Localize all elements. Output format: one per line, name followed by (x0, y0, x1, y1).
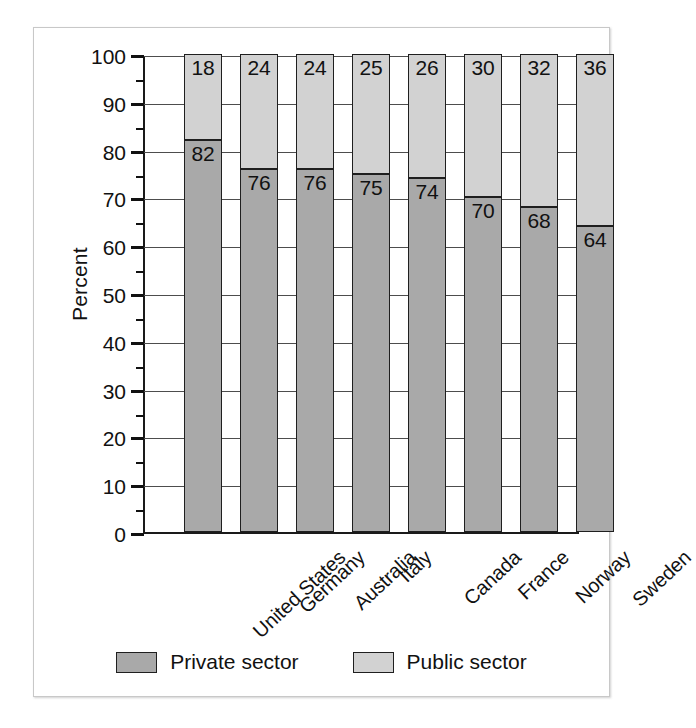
bar-segment-private[interactable]: 64 (576, 226, 614, 532)
y-axis-tick-label: 0 (114, 524, 126, 545)
bar-segment-public[interactable]: 18 (184, 54, 222, 140)
chart-legend: Private sectorPublic sector (34, 650, 609, 674)
bar-segment-private[interactable]: 75 (352, 174, 390, 533)
bar-segment-private[interactable]: 70 (464, 197, 502, 532)
bar-segment-private[interactable]: 82 (184, 140, 222, 532)
x-axis-tick-label: France (513, 546, 573, 604)
y-axis-tick-label: 60 (103, 237, 126, 258)
y-axis-tick-label: 70 (103, 189, 126, 210)
bar-segment-private[interactable]: 76 (240, 169, 278, 532)
y-axis-tick (131, 294, 144, 297)
bar-value-label: 70 (465, 200, 501, 222)
bar-segment-public[interactable]: 24 (296, 54, 334, 169)
y-axis-minor-tick (136, 223, 144, 225)
y-axis-minor-tick (136, 510, 144, 512)
bar-group[interactable]: 7030 (464, 54, 502, 532)
y-axis-minor-tick (136, 462, 144, 464)
bar-value-label: 82 (185, 143, 221, 165)
bar-group[interactable]: 8218 (184, 54, 222, 532)
y-axis-tick (131, 198, 144, 201)
legend-entry[interactable]: Private sector (116, 650, 298, 674)
bar-value-label: 30 (465, 57, 501, 79)
figure-frame: Percent 0102030405060708090100 821876247… (33, 27, 610, 697)
y-axis-minor-tick (136, 367, 144, 369)
legend-swatch (353, 652, 394, 673)
y-axis-tick-label: 80 (103, 141, 126, 162)
y-axis-tick-label: 50 (103, 285, 126, 306)
y-axis-tick-label: 90 (103, 93, 126, 114)
y-axis-tick (131, 390, 144, 393)
bar-group[interactable]: 7525 (352, 54, 390, 532)
y-axis-minor-tick (136, 176, 144, 178)
y-axis-tick (131, 151, 144, 154)
legend-entry[interactable]: Public sector (353, 650, 527, 674)
y-axis-minor-tick (136, 319, 144, 321)
x-axis-line (143, 532, 579, 534)
bar-segment-public[interactable]: 32 (520, 54, 558, 207)
bar-group[interactable]: 7426 (408, 54, 446, 532)
bar-value-label: 64 (577, 229, 613, 251)
bar-group[interactable]: 6832 (520, 54, 558, 532)
y-axis-minor-tick (136, 128, 144, 130)
bar-value-label: 24 (297, 57, 333, 79)
x-axis-tick-label: Sweden (628, 546, 696, 611)
bar-value-label: 75 (353, 177, 389, 199)
bar-segment-private[interactable]: 74 (408, 178, 446, 532)
y-axis-tick-label: 100 (91, 46, 126, 67)
bar-segment-private[interactable]: 76 (296, 169, 334, 532)
bar-segment-private[interactable]: 68 (520, 207, 558, 532)
bar-value-label: 36 (577, 57, 613, 79)
legend-swatch (116, 652, 157, 673)
y-axis-tick-label: 10 (103, 476, 126, 497)
bar-value-label: 26 (409, 57, 445, 79)
bar-segment-public[interactable]: 36 (576, 54, 614, 226)
y-axis-tick (131, 437, 144, 440)
bar-value-label: 74 (409, 181, 445, 203)
bar-segment-public[interactable]: 24 (240, 54, 278, 169)
plot-area: 0102030405060708090100 82187624762475257… (143, 56, 579, 534)
bar-value-label: 76 (297, 172, 333, 194)
y-axis-tick-label: 40 (103, 332, 126, 353)
y-axis-minor-tick (136, 271, 144, 273)
legend-label: Private sector (170, 650, 298, 674)
bar-value-label: 24 (241, 57, 277, 79)
bar-group[interactable]: 6436 (576, 54, 614, 532)
bar-segment-public[interactable]: 26 (408, 54, 446, 178)
x-axis-tick-label: Norway (571, 546, 635, 608)
bar-group[interactable]: 7624 (240, 54, 278, 532)
bar-value-label: 32 (521, 57, 557, 79)
bar-value-label: 25 (353, 57, 389, 79)
y-axis-tick-label: 30 (103, 380, 126, 401)
bar-segment-public[interactable]: 25 (352, 54, 390, 174)
legend-label: Public sector (407, 650, 527, 674)
y-axis-tick (131, 55, 144, 58)
y-axis-tick-label: 20 (103, 428, 126, 449)
bar-group[interactable]: 7624 (296, 54, 334, 532)
y-axis-tick (131, 533, 144, 536)
y-axis-label: Percent (68, 247, 92, 321)
y-axis-tick (131, 103, 144, 106)
y-axis-tick (131, 342, 144, 345)
y-axis-tick (131, 246, 144, 249)
bar-value-label: 68 (521, 210, 557, 232)
y-axis-minor-tick (136, 415, 144, 417)
y-axis-minor-tick (136, 80, 144, 82)
y-axis-tick (131, 485, 144, 488)
bar-value-label: 76 (241, 172, 277, 194)
x-axis-tick-label: Canada (459, 546, 525, 610)
bar-value-label: 18 (185, 57, 221, 79)
bar-segment-public[interactable]: 30 (464, 54, 502, 197)
